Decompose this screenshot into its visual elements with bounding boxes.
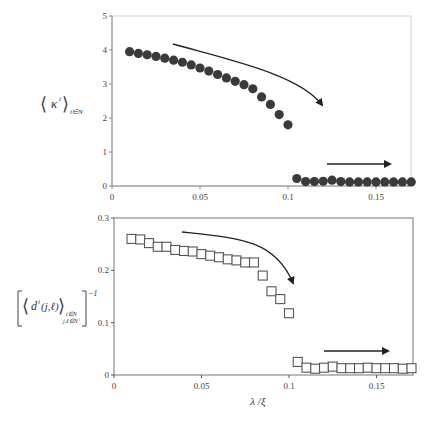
data-point [390,364,399,373]
svg-text:(j,ℓ): (j,ℓ) [41,300,59,313]
data-point [136,235,145,244]
svg-text:⟨: ⟨ [22,296,29,316]
top-chart: 012345 00.050.10.15 ⟨ κ i ⟩ i∈N [40,11,416,202]
data-point [127,234,136,243]
bottom-y-ticks: 00.10.20.3 [98,213,114,380]
data-point [125,47,134,56]
bottom-chart: 00.10.20.3 00.050.10.15 ⟨ d i (j,ℓ) ⟩ i∈… [18,213,416,408]
y-tick-label: 0.3 [98,213,110,223]
data-point [293,357,302,366]
svg-text:d: d [31,299,38,313]
data-point [258,271,267,280]
data-point [160,54,169,63]
data-point [162,242,171,251]
svg-text:⟩: ⟩ [62,94,69,114]
top-x-ticks: 00.050.10.15 [110,186,385,202]
x-tick-label: 0 [112,381,117,391]
bottom-x-ticks: 00.050.10.15 [112,375,385,391]
data-point [180,246,189,255]
data-point [232,256,241,265]
svg-text:⟨: ⟨ [40,94,47,114]
data-point [145,239,154,248]
y-tick-label: 2 [103,113,108,123]
y-tick-label: 0 [103,181,108,191]
top-curved-arrow-icon [173,44,322,105]
top-y-label: ⟨ κ i ⟩ i∈N [40,94,83,116]
data-point [241,258,250,267]
data-point [310,177,319,186]
svg-text:⟩: ⟩ [58,296,65,316]
data-point [153,242,162,251]
x-tick-label: 0.1 [282,192,293,202]
data-point [239,80,248,89]
svg-text:i∈N: i∈N [66,311,78,317]
bottom-data-points [127,234,416,373]
data-point [389,177,398,186]
data-point [215,253,224,262]
data-point [266,100,275,109]
data-point [292,174,301,183]
data-point [151,52,160,61]
data-point [267,287,276,296]
data-point [223,255,232,264]
data-point [222,73,231,82]
data-point [250,258,259,267]
y-tick-label: 1 [103,147,108,157]
top-y-ticks: 012345 [103,11,113,191]
data-point [188,247,197,256]
data-point [407,364,416,373]
data-point [363,363,372,372]
x-tick-label: 0.15 [368,192,384,202]
y-tick-label: 4 [103,45,108,55]
data-point [398,364,407,373]
data-point [171,245,180,254]
data-point [178,58,187,67]
y-tick-label: 0.2 [98,265,109,275]
data-point [285,309,294,318]
data-point [204,66,213,75]
data-point [355,364,364,373]
bottom-y-label: ⟨ d i (j,ℓ) ⟩ i∈N j,ℓ∈Nⁱ −1 [18,289,97,326]
svg-text:i∈N: i∈N [70,108,83,116]
data-point [407,177,416,186]
data-point [380,177,389,186]
x-tick-label: 0.05 [194,381,210,391]
data-point [336,177,345,186]
data-point [248,84,257,93]
svg-text:i: i [38,298,40,306]
x-tick-label: 0.1 [283,381,294,391]
data-point [257,92,266,101]
data-point [327,176,336,185]
data-point [346,364,355,373]
data-point [275,110,284,119]
x-tick-label: 0.05 [192,192,208,202]
data-point [302,363,311,372]
data-point [320,363,329,372]
data-point [187,60,196,69]
data-point [197,250,206,259]
data-point [195,63,204,72]
y-tick-label: 0 [105,370,110,380]
svg-text:j,ℓ∈Nⁱ: j,ℓ∈Nⁱ [62,318,80,324]
data-point [231,77,240,86]
data-point [134,49,143,58]
data-point [371,177,380,186]
data-point [213,70,222,79]
svg-text:κ: κ [51,96,58,111]
figure: 012345 00.050.10.15 ⟨ κ i ⟩ i∈N 00.10.20… [0,0,428,423]
data-point [276,295,285,304]
data-point [363,177,372,186]
data-point [169,56,178,65]
data-point [372,364,381,373]
data-point [381,364,390,373]
data-point [337,364,346,373]
data-point [206,251,215,260]
data-point [398,177,407,186]
data-point [328,362,337,371]
data-point [311,364,320,373]
y-tick-label: 0.1 [98,318,109,328]
svg-text:i: i [59,95,61,103]
y-tick-label: 5 [103,11,108,21]
data-point [319,177,328,186]
top-data-points [125,47,416,186]
